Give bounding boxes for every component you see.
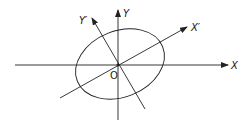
y-axis-label: Y — [123, 8, 130, 19]
y-prime-axis-label: Y′ — [79, 15, 88, 26]
diagram-canvas: X Y X′ Y′ O — [0, 0, 245, 125]
origin-point — [117, 64, 120, 67]
origin-label: O — [110, 70, 118, 81]
y-prime-axis — [92, 18, 145, 109]
x-prime-axis — [60, 27, 187, 98]
x-prime-axis-label: X′ — [190, 22, 201, 33]
x-axis-label: X — [230, 60, 239, 71]
